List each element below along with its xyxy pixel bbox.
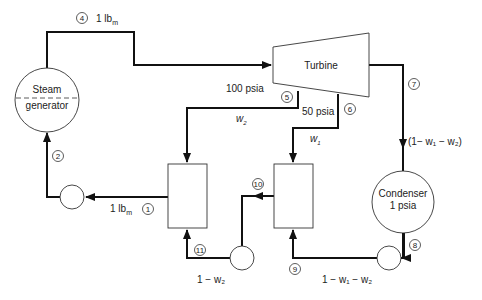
pipe-state-9 bbox=[293, 230, 377, 258]
flow-label-1: 1 lbm bbox=[110, 203, 132, 216]
svg-text:8: 8 bbox=[413, 241, 418, 250]
steam-generator-label-2: generator bbox=[26, 100, 69, 111]
condenser-label-1: Condenser bbox=[379, 188, 429, 199]
state-marker-7: 7 bbox=[409, 79, 420, 90]
pipe-state-4 bbox=[47, 32, 271, 69]
flow-label-w2: w2 bbox=[236, 113, 247, 126]
flow-label-4: 1 lbm bbox=[96, 13, 118, 26]
svg-text:5: 5 bbox=[285, 93, 290, 102]
state-marker-10: 10 bbox=[253, 179, 264, 190]
flow-label-to-condenser: (1− w₁ − w₂) bbox=[408, 136, 462, 147]
state-marker-5: 5 bbox=[282, 92, 293, 103]
svg-text:7: 7 bbox=[412, 80, 417, 89]
pump-middle bbox=[230, 246, 254, 270]
condenser-label-2: 1 psia bbox=[390, 200, 417, 211]
state-marker-6: 6 bbox=[345, 104, 356, 115]
state-marker-1: 1 bbox=[143, 204, 154, 215]
steam-generator-label-1: Steam bbox=[33, 84, 62, 95]
svg-text:4: 4 bbox=[80, 14, 85, 23]
pipe-state-11 bbox=[187, 230, 230, 258]
flow-label-after-pump-condensate: 1 − w₁ − w₂ bbox=[322, 274, 372, 285]
svg-text:2: 2 bbox=[56, 152, 61, 161]
pipe-state-7 bbox=[369, 65, 403, 96]
svg-text:10: 10 bbox=[254, 180, 263, 189]
pump-main bbox=[60, 185, 84, 209]
state-marker-9: 9 bbox=[290, 264, 301, 275]
state-marker-8: 8 bbox=[410, 240, 421, 251]
feedwater-heater-low bbox=[274, 164, 313, 228]
pressure-label-100: 100 psia bbox=[226, 83, 264, 94]
regenerative-rankine-cycle-diagram: Turbine Steam generator Condenser 1 psia… bbox=[0, 0, 482, 300]
state-marker-11: 11 bbox=[195, 245, 206, 256]
pipe-state-2 bbox=[47, 133, 60, 197]
pressure-label-50: 50 psia bbox=[302, 106, 335, 117]
svg-text:6: 6 bbox=[348, 105, 353, 114]
feedwater-heater-high bbox=[168, 164, 207, 228]
pipe-condenser-outlet bbox=[402, 233, 403, 258]
pipe-state-6 bbox=[293, 94, 338, 162]
turbine-label: Turbine bbox=[304, 60, 338, 71]
flow-label-w1: w1 bbox=[310, 133, 321, 146]
pipe-state-10 bbox=[242, 196, 274, 246]
pump-condensate bbox=[377, 246, 401, 270]
state-marker-4: 4 bbox=[77, 13, 88, 24]
flow-label-after-pump-middle: 1 − w₂ bbox=[197, 274, 225, 285]
svg-text:1: 1 bbox=[146, 205, 151, 214]
svg-text:11: 11 bbox=[196, 246, 205, 255]
pipe-state-5 bbox=[187, 91, 298, 162]
svg-text:9: 9 bbox=[293, 265, 298, 274]
state-marker-2: 2 bbox=[53, 151, 64, 162]
